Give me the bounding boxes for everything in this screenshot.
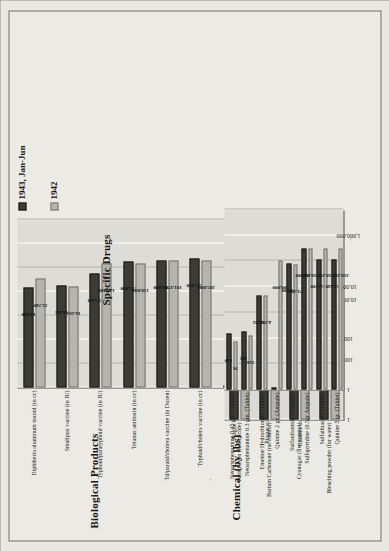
category-label: Cyanogas (flea control) <box>296 422 303 479</box>
legend-label-1942: 1942 <box>49 181 58 199</box>
axis-tick-label: 100 <box>345 333 351 342</box>
scan-speck <box>349 238 351 240</box>
page-inner-border: 1943, Jan-Jun 1942 Biological Products 1… <box>8 10 381 541</box>
legend-item-1943: 1943, Jan-Jun <box>17 145 26 210</box>
chart-row: Sulfathiazole (Tablet)114,100318,100 <box>314 210 329 389</box>
bar-value-label: 76 <box>232 365 237 370</box>
legend-label-1943: 1943, Jan-Jun <box>17 145 26 199</box>
category-label: Paris Green (insecticide) <box>236 422 243 481</box>
bar-value-label: 318,100 <box>332 272 348 277</box>
bar-series1: 81,100 <box>286 263 291 389</box>
bar-series1: 114,100 <box>316 259 321 389</box>
chart-row: Sulfanilamide (Ampule)81,10071,200 <box>284 210 299 389</box>
chart-specific-drugs: Specific Drugs 110010,0001,000,000Neoars… <box>9 210 209 540</box>
bar-value-label: 126 <box>246 359 254 364</box>
bar-series2: 126 <box>248 335 253 389</box>
axis-tick-label: 1,000,000 <box>345 223 351 247</box>
category-label: Sulfapyridine (0.5gr Ampule) <box>303 392 310 463</box>
category-label: Sulfathiazole (Tablet) <box>318 392 325 444</box>
axis-tick-label: 1 <box>345 418 351 421</box>
bar-series2: 318,100 <box>338 248 343 389</box>
chart-legend: 1943, Jan-Jun 1942 <box>15 100 73 210</box>
legend-item-1942: 1942 <box>49 181 58 210</box>
category-label: Sulfanilamide (Ampule) <box>288 392 295 451</box>
chart-row: Sulfapyridine (0.5gr Ampule)311,000318,0… <box>299 210 314 389</box>
category-label: Emetine Hydrochloride (Tablet) <box>258 392 265 469</box>
axis-tick-label: 100 <box>345 355 351 364</box>
chart-row: Quinine 5 gr. (Tablet)112,240318,100 <box>329 210 344 389</box>
bar-series2: 4,502 <box>263 295 268 389</box>
bar-series2: 100,000 <box>278 260 283 389</box>
bar-series2: 76 <box>233 341 238 389</box>
category-label: Barium Carbonate (rat control) <box>266 422 273 496</box>
axis-tick-label: 10,000 <box>345 278 351 295</box>
chart-row: Neoarsphenamine 0.3 gm. (Tablet)185126 <box>239 210 254 389</box>
scan-speck <box>209 478 211 480</box>
bar-series2: 71,200 <box>293 264 298 389</box>
bar-value-label: 150 <box>225 357 233 362</box>
category-label: Neoarsphenamine 0.45 gm. (Tablet) <box>228 392 235 478</box>
bar-series1: 185 <box>241 331 246 389</box>
bar-series1 <box>271 387 276 389</box>
scanned-page-background: 1943, Jan-Jun 1942 Biological Products 1… <box>0 0 389 551</box>
chart-row: Emetine Hydrochloride (Tablet)4,5024,502 <box>254 210 269 389</box>
category-label: Neoarsphenamine 0.3 gm. (Tablet) <box>243 392 250 475</box>
category-label: Bleaching powder (for water) <box>326 422 333 493</box>
category-label: Quinine 5 gr. (Tablet) <box>333 392 340 444</box>
bar-series1: 112,240 <box>331 259 336 389</box>
legend-swatch-1942 <box>50 202 58 210</box>
chart-row: Quinine 2 gr. (Ampule)100,000 <box>269 210 284 389</box>
scanned-document-page: 1943, Jan-Jun 1942 Biological Products 1… <box>0 0 389 551</box>
legend-swatch-1943 <box>18 202 26 210</box>
category-label: Quinine 2 gr. (Ampule) <box>273 392 280 448</box>
gridline <box>224 208 343 209</box>
bar-series2: 318,100 <box>323 248 328 389</box>
chart-row: Neoarsphenamine 0.45 gm. (Tablet)15076 <box>224 210 239 389</box>
chart-title-specific-drugs: Specific Drugs <box>99 234 111 305</box>
plot-area-specific-drugs: 110010,0001,000,000Neoarsphenamine 0.45 … <box>224 210 344 390</box>
bar-series2: 318,000 <box>308 248 313 389</box>
axis-tick-label: 1 <box>345 388 351 391</box>
bar-series1: 4,502 <box>256 295 261 389</box>
bar-series1: 150 <box>226 333 231 389</box>
bar-series1: 311,000 <box>301 248 306 389</box>
